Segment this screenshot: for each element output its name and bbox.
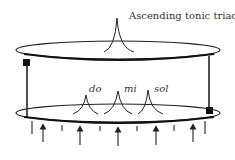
- note-label-mi: mi: [124, 83, 137, 94]
- upper-plane: [16, 41, 220, 60]
- right-post: [206, 56, 213, 114]
- note-peaks: [73, 90, 163, 114]
- title-label: Ascending tonic triad: [128, 10, 235, 21]
- input-arrows: [32, 121, 205, 146]
- peak-mi: [104, 91, 132, 114]
- upper-peak: [104, 18, 134, 52]
- lower-plane: [16, 104, 220, 123]
- tonic-triad-diagram: Ascending tonic triad do mi sol: [0, 0, 235, 160]
- note-label-do: do: [89, 83, 101, 94]
- note-label-sol: sol: [154, 83, 168, 94]
